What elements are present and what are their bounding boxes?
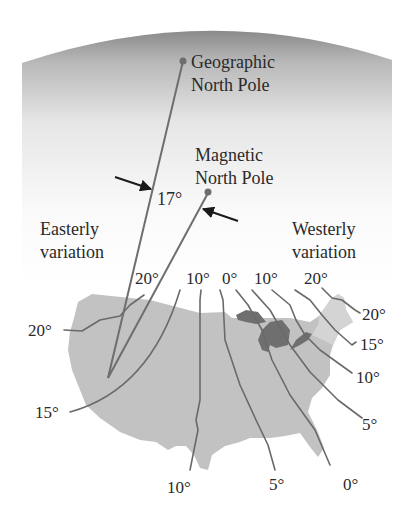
geographic-pole-dot	[180, 58, 187, 65]
magnetic-pole-label: Magnetic	[195, 145, 263, 165]
easterly-variation-label: variation	[40, 242, 104, 262]
isogonic-label-bottom-0: 0°	[343, 475, 358, 494]
isogonic-label-top: 0°	[222, 269, 237, 288]
easterly-variation-label: Easterly	[40, 219, 99, 239]
usa-landmass	[68, 294, 353, 470]
isogonic-label-left-20: 20°	[28, 321, 52, 340]
westerly-variation-label: variation	[292, 242, 356, 262]
declination-diagram: Geographic North Pole Magnetic North Pol…	[0, 0, 419, 522]
isogonic-label-right-5: 5°	[362, 415, 377, 434]
isogonic-label-right-10: 10°	[356, 368, 380, 387]
isogonic-label-right-20: 20°	[362, 305, 386, 324]
isogonic-label-bottom-10: 10°	[167, 478, 191, 497]
isogonic-label-top: 10°	[254, 269, 278, 288]
angle-label: 17°	[157, 189, 182, 209]
geographic-pole-label: Geographic	[191, 52, 275, 72]
isogonic-label-bottom-5: 5°	[269, 475, 284, 494]
magnetic-pole-dot	[205, 189, 212, 196]
magnetic-pole-label: North Pole	[195, 168, 274, 188]
isogonic-label-top: 10°	[186, 269, 210, 288]
geographic-pole-label: North Pole	[191, 75, 270, 95]
isogonic-label-top: 20°	[304, 269, 328, 288]
isogonic-label-left-15: 15°	[35, 403, 59, 422]
isogonic-label-top: 20°	[135, 269, 159, 288]
isogonic-label-right-15: 15°	[360, 335, 384, 354]
westerly-variation-label: Westerly	[292, 219, 356, 239]
